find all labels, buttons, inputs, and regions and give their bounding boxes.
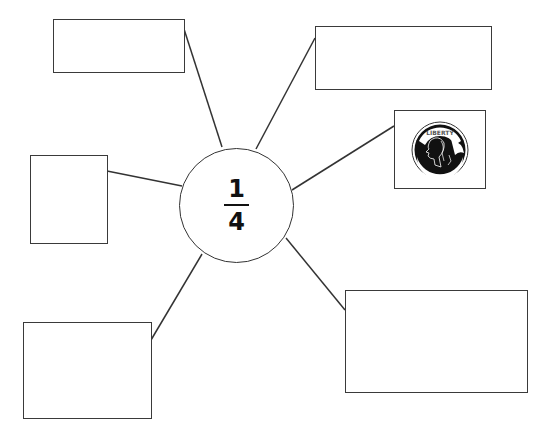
connector-bottom-right [286,238,345,310]
quarter-coin-icon: LIBERTY [411,121,469,179]
center-circle: 1 4 [179,148,294,263]
connector-bottom-left [151,254,202,340]
fraction-bar [224,204,249,206]
answer-box-bottom-left[interactable] [23,322,152,419]
connector-left [107,171,182,186]
answer-box-top-left[interactable] [53,19,185,73]
fraction-numerator: 1 [228,177,245,201]
connector-top-right [256,38,315,149]
answer-box-left[interactable] [30,155,108,244]
svg-text:LIBERTY: LIBERTY [426,129,454,136]
fraction-one-quarter: 1 4 [224,177,249,234]
connector-top-left [184,29,222,147]
answer-box-bottom-right[interactable] [345,290,528,393]
fraction-denominator: 4 [228,210,245,234]
answer-box-coin: LIBERTY [394,110,486,189]
connector-right-coin [292,126,394,190]
answer-box-top-right[interactable] [315,26,492,90]
